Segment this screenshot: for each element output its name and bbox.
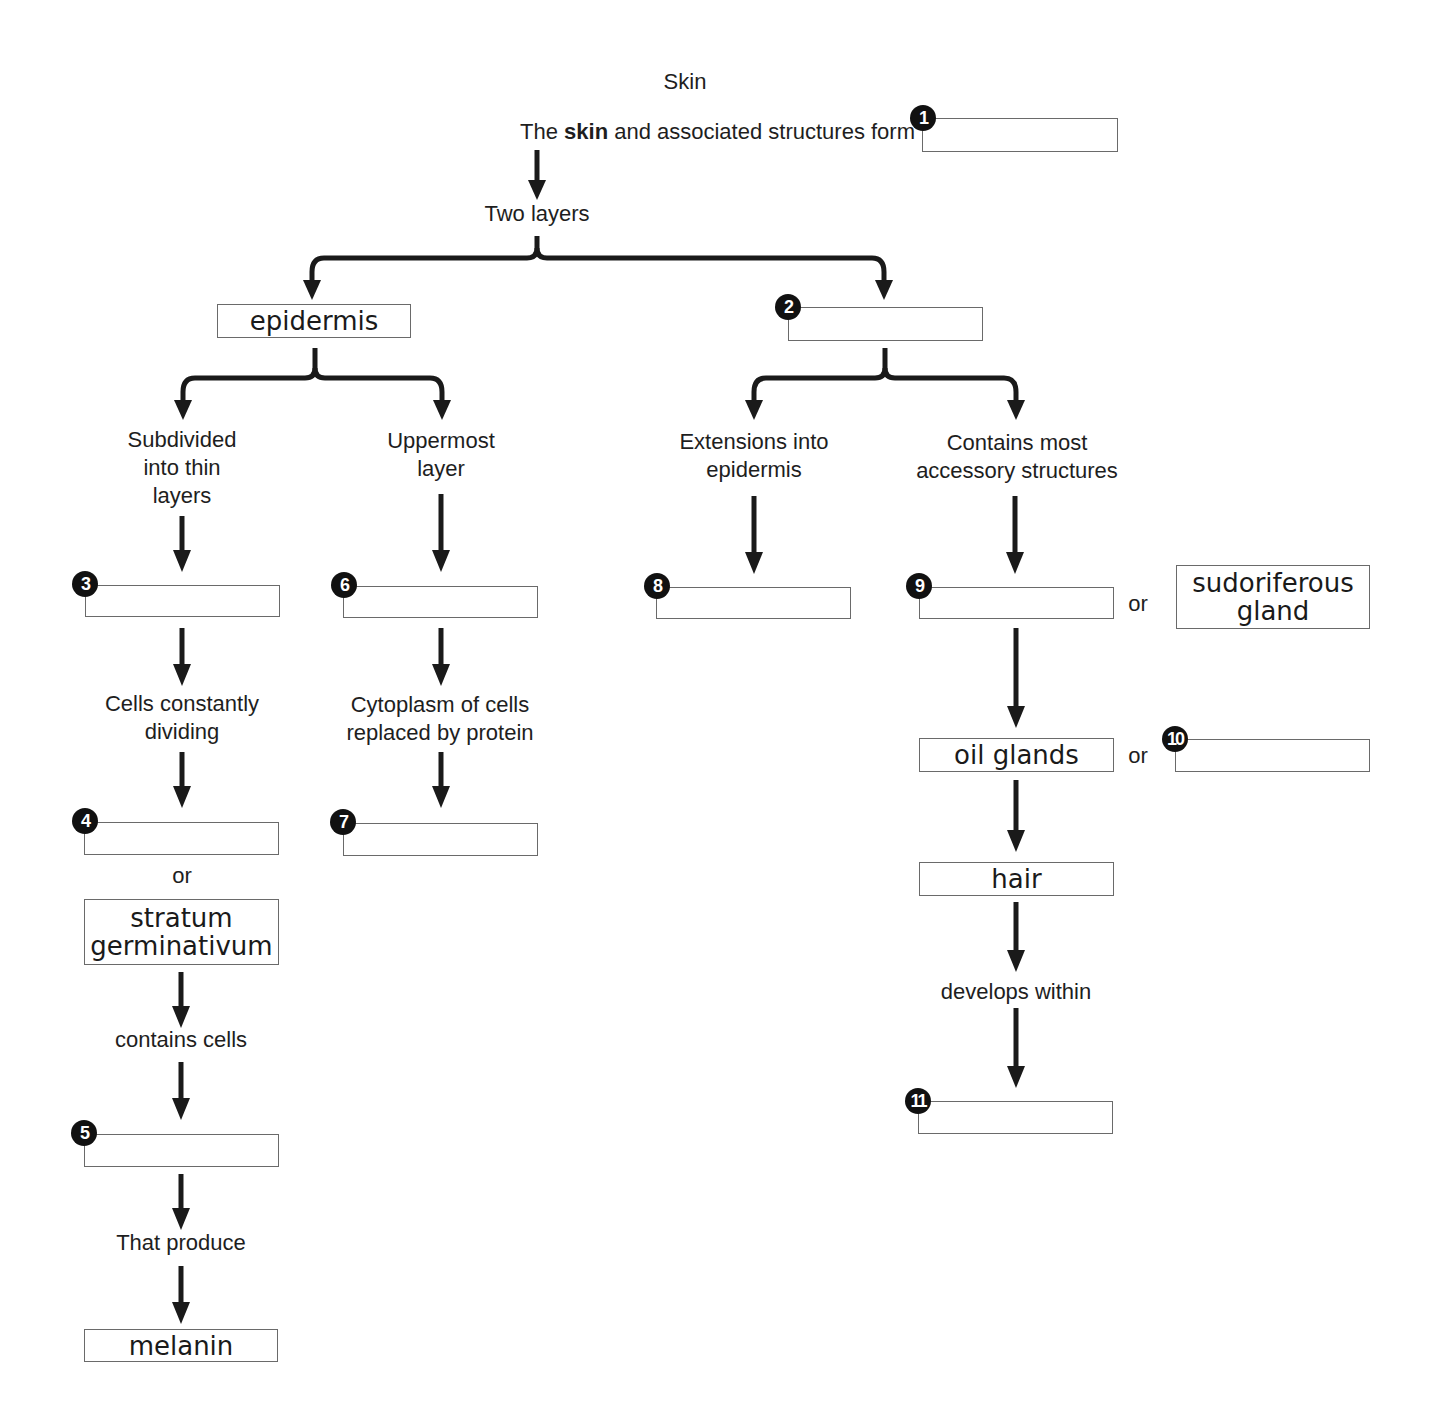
blank-5[interactable]	[84, 1134, 279, 1167]
uppermost-label: Uppermost layer	[341, 427, 541, 483]
number-badge-4: 4	[72, 808, 98, 834]
develops-within-label: develops within	[906, 978, 1126, 1006]
number-badge-7: 7	[330, 809, 356, 835]
blank-6[interactable]	[343, 586, 538, 618]
hair-box: hair	[919, 862, 1114, 896]
blank-4[interactable]	[84, 822, 279, 855]
cytoplasm-label: Cytoplasm of cells replaced by protein	[320, 691, 560, 747]
two-layers-label: Two layers	[437, 200, 637, 228]
subdivided-label: Subdivided into thin layers	[82, 426, 282, 510]
intro-suffix: and associated structures form	[608, 119, 915, 144]
stratum-germinativum-box: stratum germinativum	[84, 899, 279, 965]
number-badge-3: 3	[72, 571, 98, 597]
blank-2[interactable]	[788, 307, 983, 341]
oil-glands-box: oil glands	[919, 738, 1114, 772]
number-badge-9: 9	[906, 573, 932, 599]
number-badge-5: 5	[71, 1120, 97, 1146]
blank-10[interactable]	[1175, 739, 1370, 772]
intro-prefix: The	[520, 119, 564, 144]
number-badge-10: 10	[1162, 726, 1188, 752]
that-produce-label: That produce	[81, 1229, 281, 1257]
sudoriferous-gland-box: sudoriferous gland	[1176, 565, 1370, 629]
number-badge-11: 11	[905, 1088, 931, 1114]
blank-9[interactable]	[919, 587, 1114, 619]
blank-11[interactable]	[918, 1101, 1113, 1134]
blank-8[interactable]	[656, 587, 851, 619]
or-label-10: or	[1120, 742, 1156, 770]
number-badge-2: 2	[775, 294, 801, 320]
epidermis-box: epidermis	[217, 304, 411, 338]
or-label-9: or	[1120, 590, 1156, 618]
extensions-label: Extensions into epidermis	[634, 428, 874, 484]
number-badge-6: 6	[331, 572, 357, 598]
blank-1[interactable]	[922, 118, 1118, 152]
contains-most-label: Contains most accessory structures	[887, 429, 1147, 485]
blank-3[interactable]	[85, 585, 280, 617]
contains-cells-label: contains cells	[81, 1026, 281, 1054]
number-badge-1: 1	[910, 105, 936, 131]
blank-7[interactable]	[343, 823, 538, 856]
or-label-4: or	[162, 862, 202, 890]
intro-text: The skin and associated structures form	[440, 118, 915, 146]
cells-dividing-label: Cells constantly dividing	[72, 690, 292, 746]
diagram-title: Skin	[635, 68, 735, 96]
intro-bold: skin	[564, 119, 608, 144]
number-badge-8: 8	[644, 573, 670, 599]
melanin-box: melanin	[84, 1329, 278, 1362]
